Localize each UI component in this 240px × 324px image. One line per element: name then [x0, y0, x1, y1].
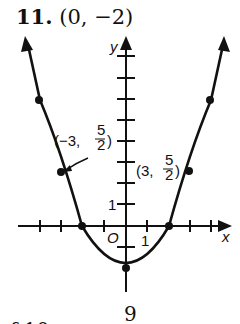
point-2-0: [165, 222, 173, 230]
curve-left-arrow-icon: [21, 36, 33, 52]
point-label-3: (3, 5 2 ): [136, 151, 180, 183]
y-axis-label: y: [109, 38, 119, 55]
svg-text:2: 2: [97, 136, 105, 153]
x-unit-label: 1: [141, 232, 149, 249]
y-axis-arrow-icon: [120, 36, 132, 50]
vertex-point: [122, 264, 130, 272]
parabola-graph: y x O 1 1 (−3, 5 2 ) (3, 5 2 ): [0, 0, 240, 324]
point-4-6: [206, 96, 214, 104]
x-axis-label: x: [221, 228, 230, 245]
curve-right-arrow-icon: [218, 36, 230, 52]
point-3-5-2: [185, 167, 193, 175]
point-neg2-0: [78, 222, 86, 230]
point-label-neg3: (−3, 5 2 ): [54, 121, 112, 153]
origin-label: O: [107, 229, 119, 246]
x-axis: [18, 220, 222, 232]
svg-text:(−3,: (−3,: [54, 132, 80, 149]
y-axis: [117, 46, 135, 292]
svg-text:): ): [175, 162, 180, 179]
svg-text:(3,: (3,: [136, 162, 154, 179]
svg-text:2: 2: [165, 166, 173, 183]
svg-text:): ): [107, 132, 112, 149]
point-neg3-5-2: [57, 168, 65, 176]
y-unit-label: 1: [108, 196, 116, 213]
point-neg4-6: [35, 96, 43, 104]
